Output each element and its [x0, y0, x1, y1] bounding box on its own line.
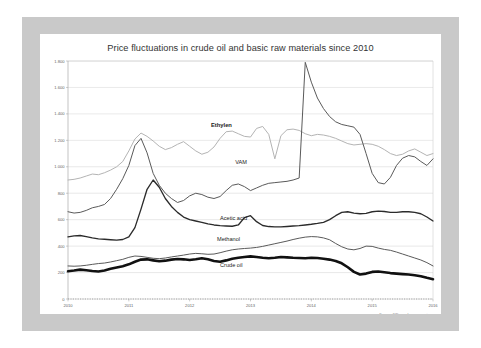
y-tick-label: 1.000 [54, 164, 65, 169]
series-line-acetic-acid [68, 180, 433, 240]
y-tick-label: 400 [58, 244, 66, 249]
x-tick-label: 2011 [124, 303, 134, 308]
y-tick-label: 1.800 [54, 59, 65, 64]
x-tick-label: 2014 [307, 303, 317, 308]
series-label-crude-oil: Crude oil [220, 262, 242, 268]
gridlines-group [66, 61, 433, 299]
y-axis-ticks-group: 02004006008001.0001.2001.4001.6001.800 [54, 59, 65, 302]
series-line-ethylen [68, 126, 433, 180]
x-tick-label: 2012 [185, 303, 195, 308]
x-axis-ticks-group: 2010201120122013201420152016 [63, 299, 438, 308]
y-tick-label: 600 [58, 217, 66, 222]
x-tick-label: 2015 [368, 303, 378, 308]
series-label-vam: VAM [235, 159, 247, 165]
y-tick-label: 1.400 [54, 111, 65, 116]
x-tick-label: 2010 [63, 303, 73, 308]
x-tick-label: 2013 [246, 303, 256, 308]
y-tick-label: 1.600 [54, 85, 65, 90]
y-tick-label: 0 [62, 297, 65, 302]
y-tick-label: 200 [58, 270, 66, 275]
y-tick-label: 1.200 [54, 138, 65, 143]
series-label-acetic-acid: Acetic acid [220, 215, 247, 221]
picture-frame: Price fluctuations in crude oil and basi… [22, 17, 459, 331]
series-line-vam [68, 62, 433, 213]
series-line-methanol [68, 237, 433, 267]
series-label-methanol: Methanol [217, 236, 240, 242]
y-tick-label: 800 [58, 191, 66, 196]
source-note-group: Source: IVK member companies [379, 313, 431, 314]
source-note: Source: IVK member companies [379, 313, 431, 314]
price-line-chart: 02004006008001.0001.2001.4001.6001.800 2… [40, 34, 441, 314]
series-lines-group [68, 62, 433, 279]
frame-inner-white: Price fluctuations in crude oil and basi… [40, 34, 441, 314]
series-label-ethylen: Ethylen [211, 122, 232, 128]
screenshot-page: Price fluctuations in crude oil and basi… [0, 0, 481, 348]
chart-container: Price fluctuations in crude oil and basi… [40, 34, 441, 314]
x-tick-label: 2016 [428, 303, 438, 308]
